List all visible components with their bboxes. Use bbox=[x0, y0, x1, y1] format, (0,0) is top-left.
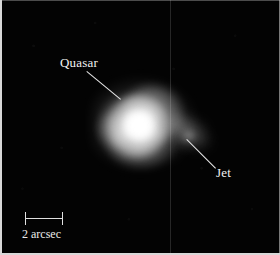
quasar-jet-figure: Quasar Jet 2 arcsec bbox=[0, 0, 280, 255]
scale-bar-cap-left bbox=[25, 212, 26, 225]
frame-edge-left bbox=[0, 0, 2, 255]
frame-edge-top bbox=[0, 0, 280, 1]
quasar-core-peak bbox=[124, 111, 154, 139]
quasar-label: Quasar bbox=[60, 56, 98, 69]
frame-edge-right bbox=[279, 0, 280, 255]
scale-bar-label: 2 arcsec bbox=[22, 228, 61, 240]
scale-bar-rule bbox=[25, 218, 62, 219]
jet-knot bbox=[183, 131, 195, 141]
scale-bar-cap-right bbox=[62, 212, 63, 225]
jet-label: Jet bbox=[216, 166, 231, 179]
